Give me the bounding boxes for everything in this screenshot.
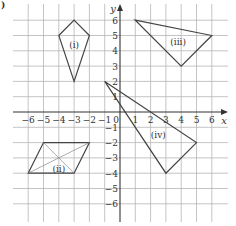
x-tick-label: −3 bbox=[67, 115, 81, 125]
y-tick-label: 3 bbox=[112, 62, 118, 72]
shape-label: (iv) bbox=[151, 130, 166, 140]
y-tick-label: −4 bbox=[105, 169, 119, 179]
x-tick-label: 4 bbox=[178, 115, 184, 125]
x-tick-label: −2 bbox=[83, 115, 96, 125]
shape-label: (i) bbox=[69, 40, 79, 50]
y-tick-label: 4 bbox=[112, 46, 118, 56]
shape-label: (ii) bbox=[52, 164, 65, 174]
coordinate-plane: xy−6−5−4−3−2−10123456−6−5−4−3−2−1123456(… bbox=[0, 0, 236, 226]
y-tick-label: −3 bbox=[105, 153, 119, 163]
x-tick-label: 5 bbox=[194, 115, 200, 125]
x-tick-label: −4 bbox=[52, 115, 66, 125]
y-tick-label: 2 bbox=[112, 77, 118, 87]
y-tick-label: −6 bbox=[105, 199, 119, 209]
x-tick-label: 6 bbox=[209, 115, 215, 125]
x-tick-label: −6 bbox=[22, 115, 36, 125]
y-tick-label: −2 bbox=[105, 138, 118, 148]
x-axis-label: x bbox=[221, 115, 227, 126]
y-axis-arrow-icon bbox=[117, 4, 123, 11]
corner-label: ) bbox=[1, 0, 5, 10]
axes bbox=[13, 4, 228, 222]
y-axis-label: y bbox=[109, 3, 116, 14]
y-tick-label: −1 bbox=[105, 123, 118, 133]
y-tick-label: 1 bbox=[112, 92, 118, 102]
x-tick-label: 2 bbox=[148, 115, 154, 125]
y-tick-label: 5 bbox=[112, 31, 118, 41]
coordinate-grid-figure: xy−6−5−4−3−2−10123456−6−5−4−3−2−1123456(… bbox=[0, 0, 236, 226]
y-tick-label: −5 bbox=[105, 184, 119, 194]
y-tick-label: 6 bbox=[112, 16, 118, 26]
x-tick-label: 1 bbox=[132, 115, 138, 125]
shape-label: (iii) bbox=[170, 37, 186, 47]
x-tick-label: −5 bbox=[37, 115, 51, 125]
x-tick-label: 3 bbox=[163, 115, 169, 125]
